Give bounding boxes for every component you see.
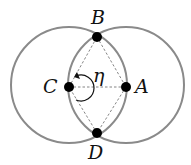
label-b: B xyxy=(90,6,105,28)
point-a xyxy=(121,82,131,92)
point-c xyxy=(64,82,74,92)
point-b xyxy=(92,32,102,42)
angle-arc xyxy=(79,74,88,99)
angle-arc-eta xyxy=(76,75,94,101)
label-d: D xyxy=(87,141,103,163)
label-c: C xyxy=(43,75,58,97)
label-a: A xyxy=(133,75,149,97)
label-eta: η xyxy=(93,64,105,86)
intersecting-circles-diagram: B C A D η xyxy=(0,0,191,165)
point-d xyxy=(92,128,102,138)
